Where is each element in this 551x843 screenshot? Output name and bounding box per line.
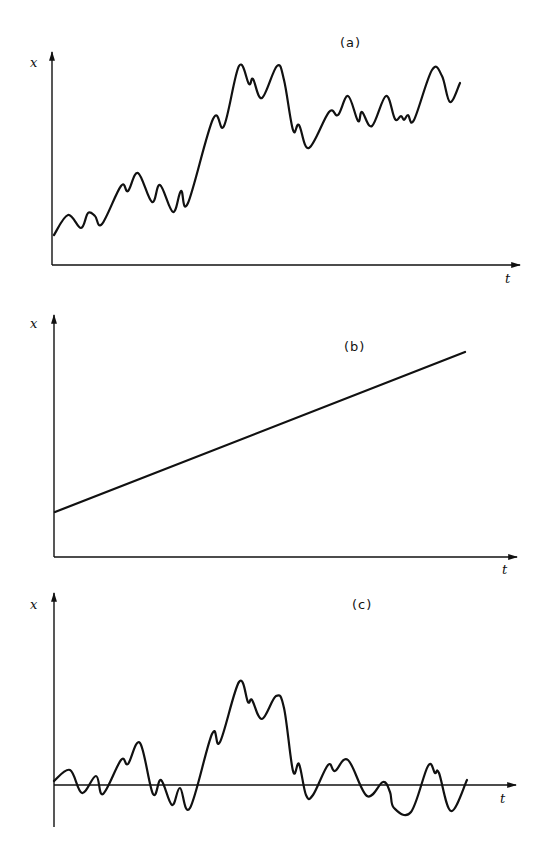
panel-c bbox=[54, 593, 516, 827]
panel-a-y-label: x bbox=[30, 55, 37, 70]
panel-b-title: (b) bbox=[344, 339, 365, 354]
panel-a-title: (a) bbox=[340, 35, 361, 50]
panel-c-x-label: t bbox=[500, 791, 505, 806]
panel-b bbox=[54, 315, 517, 557]
figure-canvas bbox=[0, 0, 551, 843]
panel-b-x-label: t bbox=[502, 562, 507, 577]
panel-a-curve bbox=[54, 64, 460, 235]
panel-c-y-label: x bbox=[30, 597, 37, 612]
panel-b-trend-line bbox=[55, 352, 465, 512]
panel-a-x-label: t bbox=[505, 271, 510, 286]
panel-a bbox=[52, 52, 520, 265]
panel-b-y-label: x bbox=[30, 316, 37, 331]
panel-c-title: (c) bbox=[352, 597, 372, 612]
panel-c-curve bbox=[54, 681, 467, 816]
